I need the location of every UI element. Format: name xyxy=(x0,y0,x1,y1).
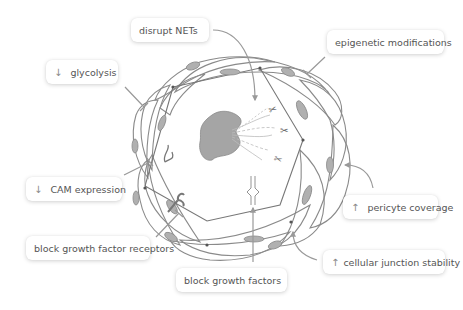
label-text: cellular junction stability xyxy=(343,257,460,268)
connector-junction xyxy=(293,232,317,260)
label-cam-expression: ↓ CAM expression xyxy=(26,177,122,201)
label-text: CAM expression xyxy=(50,184,126,195)
label-block-growth-factor-receptors: block growth factor receptors xyxy=(26,236,150,260)
label-pericyte-coverage: ↑ pericyte coverage xyxy=(343,195,438,219)
label-text: disrupt NETs xyxy=(139,25,198,36)
label-text: block growth factor receptors xyxy=(34,243,174,254)
label-disrupt-nets: disrupt NETs xyxy=(131,18,209,42)
label-epigenetic-modifications: epigenetic modifications xyxy=(327,30,444,54)
up-arrow-icon: ↑ xyxy=(331,257,339,268)
label-block-growth-factors: block growth factors xyxy=(176,268,287,292)
endothelial-cells xyxy=(133,57,350,261)
svg-text:✂: ✂ xyxy=(280,125,288,136)
label-glycolysis: ↓ glycolysis xyxy=(46,60,118,84)
scissors-icons: ✂ ✂ ✂ xyxy=(267,103,288,166)
label-text: epigenetic modifications xyxy=(335,37,452,48)
svg-text:✂: ✂ xyxy=(272,153,284,166)
label-text: glycolysis xyxy=(70,67,116,78)
label-text: pericyte coverage xyxy=(367,202,453,213)
neutrophil-icon xyxy=(200,111,242,160)
down-arrow-icon: ↓ xyxy=(34,184,42,195)
up-arrow-icon: ↑ xyxy=(351,202,359,213)
net-strands xyxy=(232,108,275,160)
label-cellular-junction-stability: ↑ cellular junction stability xyxy=(323,250,445,274)
cell-nuclei xyxy=(132,60,334,250)
svg-text:✂: ✂ xyxy=(267,103,279,116)
growth-factor-icon xyxy=(247,176,259,205)
down-arrow-icon: ↓ xyxy=(54,67,62,78)
label-text: block growth factors xyxy=(184,275,281,286)
